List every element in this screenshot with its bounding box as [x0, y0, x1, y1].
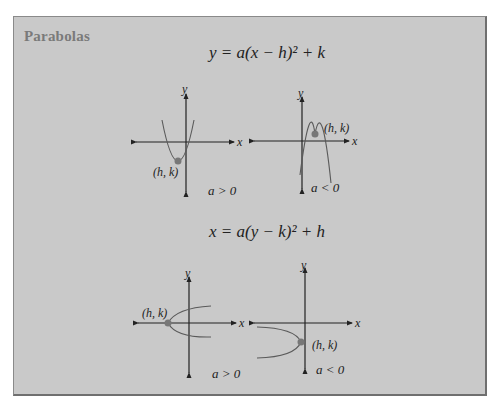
parabola-curve: [162, 120, 194, 161]
x-axis-label: x: [351, 134, 358, 148]
condition-label: a < 0: [311, 180, 340, 195]
parabolas-panel: Parabolas y = a(x − h)² + k x = a(y − k)…: [13, 16, 487, 396]
condition-label: a > 0: [208, 183, 237, 198]
x-axis-label: x: [238, 316, 245, 330]
graph-up-opening: x y (h, k) a > 0: [136, 82, 243, 198]
vertex-point: [312, 131, 319, 138]
graph-left-opening: x y (h, k) a < 0: [254, 258, 361, 377]
condition-label: a > 0: [212, 366, 241, 381]
y-axis-label: y: [181, 82, 188, 96]
y-axis-label: y: [184, 266, 191, 280]
graph-down-opening: x y (h, k) a < 0: [254, 86, 358, 195]
vertex-label: (h, k): [142, 306, 167, 320]
condition-label: a < 0: [316, 362, 345, 377]
vertex-point: [298, 339, 305, 346]
vertex-label: (h, k): [153, 165, 178, 179]
y-axis-label: y: [297, 86, 304, 100]
graph-right-opening: x y (h, k) a > 0: [138, 266, 245, 381]
vertex-label: (h, k): [324, 121, 349, 135]
y-axis-label: y: [300, 258, 307, 272]
vertex-point: [165, 320, 172, 327]
x-axis-label: x: [354, 316, 361, 330]
parabola-curve: [257, 327, 301, 358]
x-axis-label: x: [236, 135, 243, 149]
parabola-diagrams: x y (h, k) a > 0 x y (h, k) a < 0 x y (h…: [14, 17, 488, 397]
vertex-point: [175, 158, 182, 165]
vertex-label: (h, k): [312, 338, 337, 352]
